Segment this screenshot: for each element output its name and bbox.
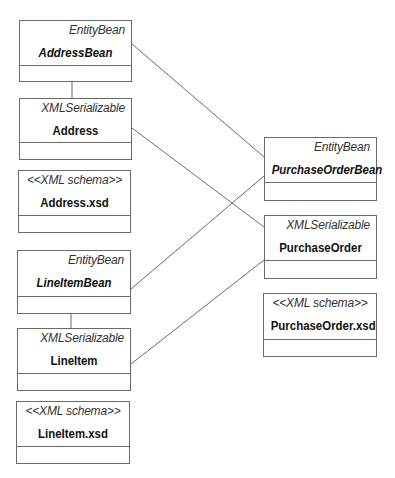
- class-box-purchaseorderbean[interactable]: EntityBeanPurchaseOrderBean: [264, 137, 377, 201]
- stereotype-label: EntityBean: [68, 253, 124, 267]
- class-name: PurchaseOrder: [272, 240, 370, 255]
- class-box-purchaseorder[interactable]: XMLSerializablePurchaseOrder: [264, 215, 377, 279]
- class-name-compartment: XMLSerializableLineItem: [18, 329, 130, 374]
- attributes-compartment: [265, 261, 376, 278]
- attributes-compartment: [20, 143, 131, 159]
- class-box-addressbean[interactable]: EntityBeanAddressBean: [19, 20, 132, 82]
- stereotype-label: <<XML schema>>: [17, 404, 129, 418]
- attributes-compartment: [20, 66, 131, 81]
- stereotype-label: <<XML schema>>: [19, 173, 130, 187]
- class-name-compartment: <<XML schema>>LineItem.xsd: [17, 402, 129, 447]
- class-box-lineitembean[interactable]: EntityBeanLineItemBean: [17, 250, 131, 314]
- class-name-compartment: XMLSerializablePurchaseOrder: [265, 216, 376, 261]
- class-name: AddressBean: [27, 45, 125, 60]
- attributes-compartment: [19, 216, 130, 232]
- class-name: LineItem: [25, 353, 124, 368]
- class-name-compartment: EntityBeanLineItemBean: [18, 251, 130, 297]
- class-name-compartment: <<XML schema>>Address.xsd: [19, 171, 130, 216]
- class-name: Address: [27, 123, 125, 138]
- class-name: PurchaseOrderBean: [272, 162, 370, 177]
- class-box-address[interactable]: XMLSerializableAddress: [19, 98, 132, 160]
- class-name: Address.xsd: [26, 195, 124, 210]
- attributes-compartment: [18, 297, 130, 313]
- stereotype-label: EntityBean: [69, 23, 125, 37]
- attributes-compartment: [18, 374, 130, 390]
- stereotype-label: XMLSerializable: [41, 101, 125, 115]
- class-box-purchaseorderxsd[interactable]: <<XML schema>>PurchaseOrder.xsd: [263, 293, 377, 357]
- attributes-compartment: [17, 447, 129, 463]
- stereotype-label: <<XML schema>>: [264, 296, 376, 310]
- class-name: PurchaseOrder.xsd: [271, 318, 370, 333]
- class-name-compartment: <<XML schema>>PurchaseOrder.xsd: [264, 294, 376, 340]
- attributes-compartment: [265, 183, 376, 200]
- stereotype-label: XMLSerializable: [286, 218, 370, 232]
- connector-address-purchaseorder: [132, 128, 264, 227]
- connector-addressbean-purchaseorderbean: [132, 44, 264, 157]
- connector-lineitem-purchaseorder: [131, 260, 264, 364]
- class-box-lineitem[interactable]: XMLSerializableLineItem: [17, 328, 131, 391]
- class-name: LineItem.xsd: [24, 426, 123, 441]
- stereotype-label: XMLSerializable: [40, 331, 124, 345]
- class-name-compartment: EntityBeanAddressBean: [20, 21, 131, 66]
- class-box-lineitemxsd[interactable]: <<XML schema>>LineItem.xsd: [16, 401, 130, 464]
- class-box-addressxsd[interactable]: <<XML schema>>Address.xsd: [18, 170, 131, 233]
- connector-lineitembean-purchaseorderbean: [131, 176, 264, 289]
- class-name: LineItemBean: [25, 275, 124, 290]
- class-name-compartment: EntityBeanPurchaseOrderBean: [265, 138, 376, 183]
- class-name-compartment: XMLSerializableAddress: [20, 99, 131, 143]
- attributes-compartment: [264, 340, 376, 356]
- stereotype-label: EntityBean: [314, 140, 370, 154]
